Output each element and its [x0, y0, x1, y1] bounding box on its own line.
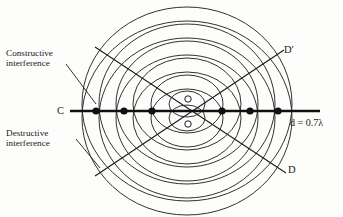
wavefront-ring-lower-4	[116, 55, 258, 181]
axis-label-c: C	[57, 105, 64, 117]
nodal-point	[148, 107, 155, 114]
source-separation-formula: d = 0.7λ	[290, 117, 323, 128]
nodal-point	[274, 107, 281, 114]
source-lower-icon	[185, 121, 191, 127]
constructive-interference-label-line2: interference	[6, 58, 53, 68]
destructive-interference-label-line2: interference	[6, 138, 50, 148]
constructive-interference-label: Constructive interference	[6, 48, 53, 69]
axis-label-d-prime: D′	[284, 44, 294, 56]
wavefront-ring-upper-1	[169, 91, 205, 117]
interference-diagram-canvas	[0, 0, 343, 217]
nodal-point	[120, 107, 127, 114]
wave-interference-figure: Constructive interference Destructive in…	[0, 0, 343, 217]
constructive-interference-label-line1: Constructive	[6, 48, 53, 58]
source-upper-icon	[185, 96, 191, 102]
wavefront-ring-upper-5	[99, 24, 275, 184]
nodal-point	[92, 107, 99, 114]
destructive-interference-label-line1: Destructive	[6, 128, 50, 138]
nodal-point	[218, 107, 225, 114]
wavefront-ring-lower-5	[99, 38, 275, 198]
destructive-interference-label: Destructive interference	[6, 128, 50, 149]
axis-label-d: D	[288, 164, 296, 176]
wavefront-ring-upper-6	[82, 7, 292, 201]
wavefront-ring-lower-6	[82, 21, 292, 215]
leader-line-constructive	[66, 64, 96, 104]
nodal-point	[246, 107, 253, 114]
